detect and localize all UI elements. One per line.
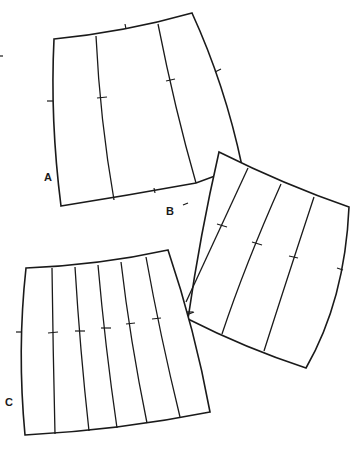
piece-b: [183, 152, 349, 368]
piece-c: [16, 250, 210, 435]
piece-c-outline: [21, 250, 210, 435]
label-a: A: [44, 171, 52, 183]
pattern-diagram: A B C: [0, 0, 360, 452]
label-c: C: [5, 396, 13, 408]
piece-b-notch-left: [183, 203, 188, 205]
label-b: B: [166, 205, 174, 217]
